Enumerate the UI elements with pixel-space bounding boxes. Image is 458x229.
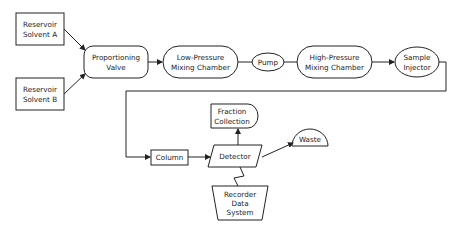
fraction-collection-node: Fraction Collection — [211, 104, 258, 128]
high-pressure-line2: Mixing Chamber — [305, 63, 364, 72]
fraction-collection-line2: Collection — [214, 117, 250, 126]
edge-detector-to-recorder-zigzag — [234, 167, 244, 186]
reservoir-a-line2: Solvent A — [23, 30, 57, 39]
recorder-line3: System — [227, 208, 254, 217]
fraction-collection-line1: Fraction — [218, 107, 247, 116]
pump-node: Pump — [252, 53, 284, 71]
reservoir-b-line1: Reservoir — [23, 85, 57, 94]
reservoir-a-line1: Reservoir — [23, 20, 57, 29]
proportioning-valve-node: Proportioning Valve — [84, 46, 148, 78]
sample-injector-line2: Injector — [403, 63, 430, 72]
edge-detector-to-waste — [262, 143, 293, 157]
reservoir-solvent-a-node: Reservoir Solvent A — [16, 13, 64, 45]
high-pressure-line1: High-Pressure — [310, 53, 360, 62]
sample-injector-node: Sample Injector — [395, 47, 439, 77]
high-pressure-mixing-chamber-node: High-Pressure Mixing Chamber — [297, 46, 372, 78]
edge-reservoir-b-to-valve — [64, 74, 85, 94]
low-pressure-mixing-chamber-node: Low-Pressure Mixing Chamber — [163, 46, 238, 78]
column-node: Column — [151, 150, 188, 165]
reservoir-solvent-b-node: Reservoir Solvent B — [16, 78, 64, 110]
waste-node: Waste — [292, 129, 328, 146]
edge-reservoir-a-to-valve — [64, 29, 85, 50]
low-pressure-line1: Low-Pressure — [177, 53, 225, 62]
recorder-data-system-node: Recorder Data System — [212, 186, 268, 220]
hplc-flow-diagram: Reservoir Solvent A Reservoir Solvent B … — [0, 0, 458, 229]
pump-label: Pump — [258, 58, 279, 67]
recorder-line1: Recorder — [224, 190, 256, 199]
waste-label: Waste — [299, 135, 322, 144]
low-pressure-line2: Mixing Chamber — [171, 63, 230, 72]
column-label: Column — [156, 153, 184, 162]
sample-injector-line1: Sample — [404, 53, 432, 62]
detector-node: Detector — [208, 145, 262, 167]
reservoir-b-line2: Solvent B — [23, 95, 57, 104]
detector-label: Detector — [219, 152, 250, 161]
proportioning-valve-line1: Proportioning — [92, 53, 140, 62]
recorder-line2: Data — [231, 199, 248, 208]
proportioning-valve-line2: Valve — [106, 63, 126, 72]
